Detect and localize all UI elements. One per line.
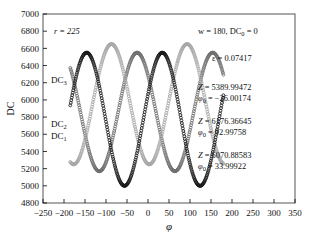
annotation-phi0-value: φ0 = 92.99758: [198, 128, 246, 138]
x-tick-label: 0: [146, 208, 151, 218]
x-axis-title: φ: [166, 220, 172, 232]
annotation-fit-dc3: Z = 5389.99472φ0 = −26.00174: [198, 83, 252, 104]
x-tick-label: 250: [246, 208, 260, 218]
series-label-dc1: DC1: [51, 131, 67, 142]
y-tick-label: 5600: [21, 129, 40, 139]
annotation-fit-dc2: Z = 6176.36645φ0 = 92.99758: [198, 117, 251, 138]
y-tick-label: 5200: [21, 164, 40, 174]
series-label-dc3: DC3: [51, 75, 67, 86]
x-tick-label: 200: [225, 208, 239, 218]
x-tick-label: −100: [97, 208, 116, 218]
data-marker: [222, 73, 225, 76]
annotation-fit-dc1: Z = 6070.88583φ0 = 33.99922: [198, 151, 251, 172]
annotation-phi0-value: φ0 = −26.00174: [198, 94, 252, 104]
dc-phase-plot: −250−200−150−100−50050100150200250300350…: [0, 0, 310, 239]
y-tick-label: 6800: [21, 26, 40, 36]
y-tick-label: 6000: [21, 95, 40, 105]
x-tick-label: −50: [120, 208, 135, 218]
annotation-z-value: Z = 5389.99472: [198, 83, 251, 92]
x-tick-label: 150: [204, 208, 218, 218]
series-DC₂: [69, 43, 225, 166]
y-tick-label: 5800: [21, 112, 40, 122]
x-tick-label: −250: [34, 208, 53, 218]
y-tick-label: 7000: [21, 9, 40, 19]
annotation-phi0-value: φ0 = 33.99922: [198, 162, 246, 172]
x-tick-label: 100: [183, 208, 197, 218]
annotation-parameters: w = 180, DC0 = 0: [198, 27, 258, 37]
y-tick-label: 4800: [21, 198, 40, 208]
y-tick-label: 5400: [21, 147, 40, 157]
annotation-epsilon: ε = 0.07417: [212, 54, 252, 63]
x-tick-label: 50: [165, 208, 175, 218]
chart-figure: −250−200−150−100−50050100150200250300350…: [0, 0, 310, 239]
annotation-z-value: Z = 6176.36645: [198, 117, 251, 126]
y-tick-label: 5000: [21, 181, 40, 191]
series-label-dc2: DC2: [51, 119, 67, 130]
y-tick-label: 6600: [21, 44, 40, 54]
x-tick-label: 350: [288, 208, 302, 218]
y-tick-label: 6200: [21, 78, 40, 88]
y-tick-label: 6400: [21, 61, 40, 71]
annotation-radius: r = 225: [54, 27, 80, 36]
x-tick-label: −150: [76, 208, 95, 218]
annotation-z-value: Z = 6070.88583: [198, 151, 251, 160]
x-tick-label: −200: [55, 208, 74, 218]
x-tick-label: 300: [267, 208, 281, 218]
y-axis-title: DC: [5, 101, 16, 115]
